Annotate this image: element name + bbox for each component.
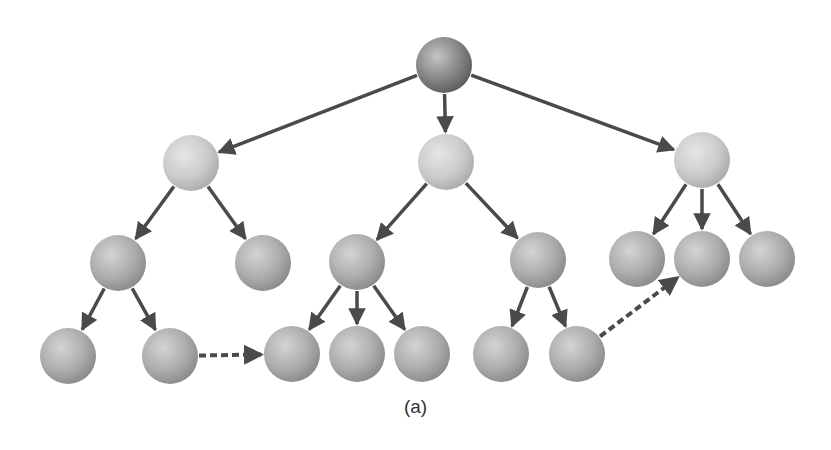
tree-edge-arrow bbox=[718, 184, 751, 234]
tree-node bbox=[674, 132, 730, 188]
tree-node bbox=[510, 232, 566, 288]
tree-edge-arrow bbox=[445, 94, 446, 132]
tree-node bbox=[40, 328, 96, 384]
tree-node bbox=[264, 326, 320, 382]
tree-edge-arrow bbox=[377, 184, 427, 240]
figure-caption: (a) bbox=[0, 396, 831, 418]
tree-node bbox=[329, 326, 385, 382]
node-layer bbox=[40, 37, 795, 384]
tree-edge-arrow bbox=[374, 286, 405, 330]
tree-node bbox=[418, 134, 474, 190]
tree-edge-arrow bbox=[309, 286, 340, 330]
tree-node bbox=[473, 326, 529, 382]
tree-node bbox=[90, 235, 146, 291]
tree-edge-arrow bbox=[136, 186, 174, 238]
edge-layer bbox=[82, 75, 750, 356]
tree-node bbox=[142, 328, 198, 384]
root-node bbox=[416, 37, 472, 93]
tree-edge-arrow bbox=[471, 75, 674, 150]
tree-edge-arrow bbox=[208, 187, 246, 239]
tree-node bbox=[609, 231, 665, 287]
tree-node bbox=[674, 231, 730, 287]
tree-node bbox=[163, 135, 219, 191]
tree-edge-arrow bbox=[82, 289, 104, 330]
dashed-link-arrow bbox=[199, 354, 262, 355]
tree-node bbox=[235, 235, 291, 291]
tree-edge-arrow bbox=[219, 75, 417, 152]
tree-diagram bbox=[0, 0, 831, 450]
tree-node bbox=[329, 234, 385, 290]
tree-edge-arrow bbox=[653, 184, 686, 234]
tree-edge-arrow bbox=[549, 287, 565, 327]
tree-edge-arrow bbox=[132, 288, 155, 330]
tree-edge-arrow bbox=[466, 183, 518, 238]
tree-node bbox=[394, 326, 450, 382]
tree-node bbox=[549, 326, 605, 382]
tree-edge-arrow bbox=[512, 287, 527, 326]
tree-node bbox=[739, 231, 795, 287]
